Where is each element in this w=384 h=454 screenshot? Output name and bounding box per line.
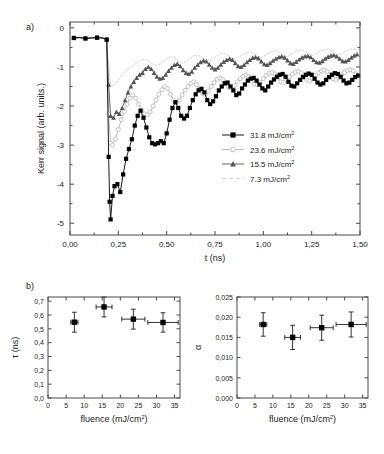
x-axis-title-main: fluence (mJ/cm [269,414,330,424]
data-marker [109,217,113,221]
x-tick-label: 30 [341,402,349,409]
y-tick-label: 0,7 [34,298,44,305]
y-tick-label: -1 [57,63,65,72]
y-axis-title: τ (ns) [10,337,20,359]
y-axis-title: α [193,345,203,350]
y-tick-label: 0,020 [215,314,233,321]
y-tick-label: 0,2 [34,367,44,374]
data-marker [339,75,343,79]
data-marker [118,190,122,194]
data-marker [131,316,136,321]
data-marker [115,182,119,186]
data-marker [177,98,181,102]
y-tick-label: 0,015 [215,334,233,341]
x-axis-title: fluence (mJ/cm2) [80,414,147,424]
panel-b-left: 051015202530350,00,10,20,30,40,50,60,7fl… [10,297,180,424]
x-tick-label: 0,00 [62,240,78,249]
data-marker [261,322,266,327]
data-marker [166,86,170,90]
data-marker [107,155,111,159]
figure-svg: 0,000,250,500,751,001,251,500-1-2-3-4-5t… [0,0,384,454]
x-axis-title-close: ) [333,414,336,424]
data-marker [312,77,316,81]
data-marker [136,114,140,118]
panel-background [237,297,368,398]
data-marker [254,79,258,83]
y-tick-label: -5 [57,219,65,228]
data-marker [240,86,244,90]
data-marker [348,322,353,327]
data-marker [173,100,177,104]
data-marker [194,92,198,96]
x-tick-label: 20 [305,402,313,409]
data-marker [283,75,287,79]
x-tick-label: 0 [235,402,239,409]
y-tick-label: 0,5 [34,326,44,333]
data-marker [185,114,189,118]
y-tick-label: 0,3 [34,353,44,360]
data-marker [101,304,106,309]
legend-exponent: 2 [291,145,294,151]
x-tick-label: 25 [323,402,331,409]
data-marker [169,92,173,96]
x-tick-label: 35 [359,402,367,409]
data-marker [144,125,148,129]
data-marker [162,141,166,145]
data-marker [243,82,247,86]
panel-b-right: 051015202530350,0000,0050,0100,0150,0200… [193,294,368,424]
data-marker [124,157,128,161]
data-marker [119,118,123,122]
data-marker [221,77,225,81]
data-marker [137,102,141,106]
data-marker [122,110,126,114]
data-marker [211,99,215,103]
y-tick-label: 0,4 [34,339,44,346]
data-marker [202,90,206,94]
data-marker [319,325,324,330]
x-tick-label: 5 [253,402,257,409]
data-marker [127,147,131,151]
data-marker [105,37,109,41]
data-marker [165,131,169,135]
data-marker [176,106,180,110]
x-tick-label: 1,50 [352,240,368,249]
data-marker [217,88,221,92]
y-tick-label: 0,025 [215,294,233,301]
data-marker [116,127,120,131]
data-marker [130,137,134,141]
x-tick-label: 0 [46,402,50,409]
legend-label-3: 7.3 mJ/cm2 [250,174,290,184]
data-marker [108,200,112,204]
data-marker [147,135,151,139]
x-tick-label: 10 [269,402,277,409]
legend-exponent: 2 [287,174,290,180]
panel-a-y-axis-title: Kerr signal (arb. units.) [36,83,46,174]
y-tick-label: -4 [57,180,65,189]
data-marker [209,84,213,88]
data-marker [205,98,209,102]
data-marker [113,137,117,141]
x-tick-label: 15 [98,402,106,409]
data-marker [310,73,314,77]
x-tick-label: 0,50 [159,240,175,249]
y-tick-label: 0 [60,24,65,33]
x-axis-title-main: fluence (mJ/cm [80,414,141,424]
x-tick-label: 20 [116,402,124,409]
legend-label-2: 15.5 mJ/cm2 [250,159,294,169]
y-tick-label: 0,010 [215,354,233,361]
data-marker [134,96,138,100]
panel-b-label: b) [26,281,34,291]
data-marker [180,93,184,97]
x-tick-label: 0,75 [207,240,223,249]
y-tick-label: -2 [57,102,65,111]
data-marker [170,106,174,110]
x-tick-label: 10 [80,402,88,409]
data-marker [231,147,236,152]
data-marker [141,116,145,120]
legend-label-0: 31.8 mJ/cm2 [250,130,294,140]
data-marker [110,194,114,198]
x-tick-label: 1,25 [304,240,320,249]
data-marker [111,143,115,147]
data-marker [290,335,295,340]
legend-value: 7.3 mJ/cm [250,175,287,184]
